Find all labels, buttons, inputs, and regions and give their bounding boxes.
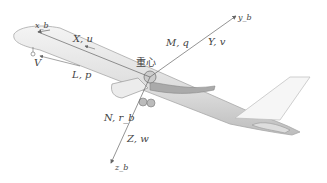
xb-axis-label: x_b: [35, 22, 49, 30]
y-force-label: Y, v: [208, 37, 225, 47]
yaw-moment-label: N, r_b: [104, 113, 135, 123]
zb-axis-label: z_b: [115, 164, 128, 172]
z-force-label: Z, w: [127, 134, 149, 144]
pitch-moment-label: M, q: [166, 38, 189, 48]
roll-moment-label: L, p: [72, 70, 91, 80]
axes-diagram: x_b X, u V L, p M, q Y, v y_b 重心 N, r_b …: [0, 0, 327, 183]
center-of-gravity-label: 重心: [136, 58, 156, 68]
velocity-label: V: [34, 58, 41, 68]
x-force-label: X, u: [73, 34, 93, 44]
aircraft-illustration: [0, 0, 327, 183]
yb-axis-label: y_b: [238, 14, 252, 22]
